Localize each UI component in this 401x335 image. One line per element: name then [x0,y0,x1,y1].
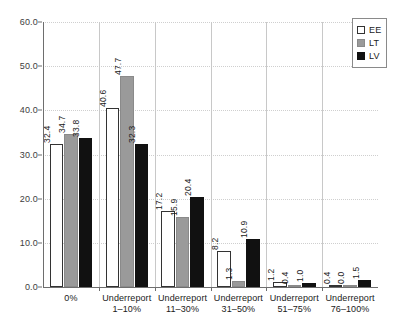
legend-swatch-icon-lt [357,39,365,47]
category-label: Underreport31–50% [211,293,267,315]
bar-value-label: 8.2 [209,237,219,249]
y-axis-tick-mark [38,198,42,199]
category-label: Underreport1–10% [99,293,155,315]
legend-item-lt: LT [357,37,381,49]
bar-value-label: 32.3 [127,126,137,143]
bar-group: 17.215.920.4 [161,22,204,287]
bar-value-label: 10.9 [238,221,248,238]
y-axis-tick-mark [38,66,42,67]
bar-lv[interactable]: 33.8 [79,138,93,287]
bar-lv[interactable]: 32.3 [135,144,149,287]
category-label: 0% [43,293,99,304]
bar-lt[interactable]: 15.9 [176,217,190,287]
bar-value-label: 17.2 [154,193,164,210]
category-label: Underreport76–100% [322,293,378,315]
bar-value-label: 0.0 [336,272,346,284]
bar-lv[interactable]: 10.9 [246,239,260,287]
group-separator [99,22,100,287]
plot-area: 32.434.733.840.647.732.317.215.920.48.21… [43,22,378,287]
y-axis-tick-marks [0,22,43,287]
bar-value-label: 47.7 [112,58,122,75]
bar-lt[interactable]: 34.7 [64,134,78,287]
bar-value-label: 1.3 [224,268,234,280]
group-separator [155,22,156,287]
bar-chart: 32.434.733.840.647.732.317.215.920.48.21… [0,0,401,335]
x-axis-tick-mark [155,287,156,291]
bar-group: 1.20.41.0 [273,22,316,287]
bar-group: 40.647.732.3 [106,22,149,287]
group-separator [322,22,323,287]
legend-label-ee: EE [369,25,381,35]
bar-value-label: 1.2 [265,268,275,280]
bar-value-label: 33.8 [71,119,81,136]
bar-group: 8.21.310.9 [217,22,260,287]
y-axis-line [43,22,44,287]
x-axis-tick-mark [211,287,212,291]
bar-value-label: 1.0 [294,269,304,281]
bar-value-label: 40.6 [98,89,108,106]
x-axis-tick-mark [266,287,267,291]
bar-ee[interactable]: 32.4 [50,144,64,287]
legend-label-lt: LT [369,38,379,48]
bar-value-label: 34.7 [56,115,66,132]
bar-value-label: 0.4 [321,272,331,284]
category-label: Underreport11–30% [155,293,211,315]
legend: EE LT LV [352,18,387,68]
legend-swatch-icon-lv [357,52,365,60]
bar-lv[interactable]: 20.4 [190,197,204,287]
y-axis-tick-mark [38,110,42,111]
y-axis-tick-mark [38,22,42,23]
legend-swatch-icon-ee [357,26,365,34]
bar-value-label: 0.4 [280,272,290,284]
y-axis-tick-mark [38,154,42,155]
bar-value-label: 20.4 [183,179,193,196]
group-separator [266,22,267,287]
legend-item-ee: EE [357,24,381,36]
bar-lv[interactable]: 1.5 [358,280,372,287]
y-axis-tick-mark [38,287,42,288]
legend-label-lv: LV [369,51,380,61]
bar-value-label: 1.5 [350,267,360,279]
bar-ee[interactable]: 40.6 [106,108,120,287]
x-axis-tick-mark [99,287,100,291]
legend-item-lv: LV [357,50,381,62]
bar-value-label: 15.9 [168,198,178,215]
bar-ee[interactable]: 17.2 [161,211,175,287]
x-axis-tick-mark [322,287,323,291]
y-axis-tick-mark [38,242,42,243]
category-label: Underreport51–75% [266,293,322,315]
bar-lt[interactable]: 47.7 [120,76,134,287]
bar-group: 32.434.733.8 [50,22,93,287]
